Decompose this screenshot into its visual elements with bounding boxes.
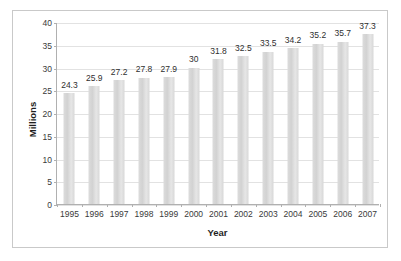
chart-frame: 051015202530354024.3199525.9199627.21997… [12,10,388,248]
bar-group: 24.31995 [57,23,82,204]
bar-group: 33.52003 [256,23,281,204]
bar-group: 32.52002 [231,23,256,204]
x-axis-tick-label: 2007 [358,210,377,219]
x-axis-tick-label: 1995 [60,210,79,219]
bar-value-label: 30 [189,55,198,64]
y-axis-tick-label: 15 [43,133,52,142]
bar-group: 27.21997 [107,23,132,204]
x-axis-tick-mark [181,204,182,207]
y-axis-tick-label: 25 [43,87,52,96]
bar [337,42,348,204]
bar-group: 35.22005 [305,23,330,204]
x-axis-tick-mark [107,204,108,207]
x-axis-tick-mark [330,204,331,207]
bar [238,56,249,204]
bar [312,44,323,204]
y-axis-tick-label: 30 [43,64,52,73]
bar-value-label: 25.9 [86,74,103,83]
bar-value-label: 35.2 [310,31,327,40]
bar-group: 37.32007 [355,23,380,204]
bar-value-label: 34.2 [285,36,302,45]
bar [64,93,75,204]
x-axis-tick-label: 2001 [209,210,228,219]
bar-group: 31.82001 [206,23,231,204]
x-axis-tick-mark [305,204,306,207]
bar [288,48,299,204]
x-axis-tick-label: 1996 [85,210,104,219]
y-axis-tick-label: 20 [43,110,52,119]
x-axis-tick-label: 2002 [234,210,253,219]
x-axis-tick-mark [380,204,381,207]
bar-group: 34.22004 [281,23,306,204]
bar-group: 27.81998 [132,23,157,204]
x-axis-tick-mark [256,204,257,207]
x-axis-tick-mark [82,204,83,207]
x-axis-tick-label: 2003 [259,210,278,219]
bar-value-label: 37.3 [359,22,376,31]
bar [138,78,149,204]
y-axis-tick-label: 35 [43,42,52,51]
y-axis-tick-label: 0 [47,201,52,210]
x-axis-tick-mark [156,204,157,207]
bar-group: 25.91996 [82,23,107,204]
y-axis-tick-label: 40 [43,19,52,28]
bar-group: 35.72006 [330,23,355,204]
bar-value-label: 27.2 [111,68,128,77]
plot-area: 051015202530354024.3199525.9199627.21997… [56,23,379,205]
bar [188,68,199,205]
y-axis-tick-label: 10 [43,155,52,164]
x-axis-tick-label: 2004 [284,210,303,219]
bar [163,77,174,204]
bar-value-label: 24.3 [61,81,78,90]
x-axis-tick-label: 1997 [110,210,129,219]
x-axis-tick-mark [355,204,356,207]
x-axis-tick-mark [57,204,58,207]
x-axis-title: Year [56,227,379,238]
bar-value-label: 32.5 [235,44,252,53]
x-axis-tick-mark [281,204,282,207]
bar [114,80,125,204]
y-axis-tick-label: 5 [47,178,52,187]
bar-value-label: 31.8 [210,47,227,56]
bar-group: 27.91999 [156,23,181,204]
bar [362,34,373,204]
x-axis-tick-label: 2005 [308,210,327,219]
bar-group: 302000 [181,23,206,204]
bar-value-label: 33.5 [260,39,277,48]
bar-value-label: 27.9 [161,65,178,74]
bar-value-label: 27.8 [136,65,153,74]
bar [263,52,274,204]
x-axis-tick-label: 1998 [134,210,153,219]
x-axis-tick-mark [206,204,207,207]
bar-value-label: 35.7 [334,29,351,38]
x-axis-tick-label: 2000 [184,210,203,219]
y-axis-title: Millions [27,80,38,160]
x-axis-tick-label: 1999 [159,210,178,219]
x-axis-tick-label: 2006 [333,210,352,219]
x-axis-tick-mark [231,204,232,207]
bar [213,59,224,204]
x-axis-tick-mark [132,204,133,207]
bar [89,86,100,204]
